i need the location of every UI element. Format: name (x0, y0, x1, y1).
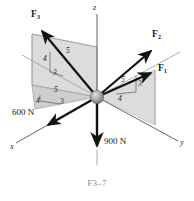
y-axis-label: y (180, 138, 184, 147)
f1-vertical-plane-lower (97, 70, 155, 125)
f3-label: F3 (31, 10, 40, 20)
f3-triangle-horiz-label: 3 (53, 69, 57, 77)
force-900-label: 900 N (104, 137, 126, 146)
f3-horizontal-hyp-label: 5 (54, 86, 58, 94)
f1-triangle-hyp-label: 5 (121, 76, 125, 84)
figure-caption: F3–7 (0, 178, 194, 188)
origin-sphere (90, 90, 103, 103)
f3-horizontal-b-label: 3 (60, 98, 64, 106)
figure-canvas (0, 0, 194, 201)
x-axis-label: x (10, 142, 14, 151)
statics-figure: F3 F2 F1 x y z 600 N 900 N 4 5 3 5 4 3 5… (0, 0, 194, 201)
force-600-label: 600 N (12, 108, 34, 117)
z-axis-label: z (93, 3, 96, 12)
f3-horizontal-a-label: 4 (36, 97, 40, 105)
f2-label: F2 (152, 30, 161, 40)
f3-triangle-hyp-label: 5 (66, 47, 70, 55)
f3-triangle-vert-label: 4 (43, 55, 47, 63)
f1-triangle-horiz-label: 4 (118, 95, 122, 103)
f1-label: F1 (158, 64, 167, 74)
f1-triangle-vert-label: 3 (138, 80, 142, 88)
